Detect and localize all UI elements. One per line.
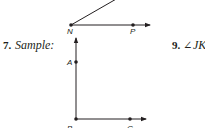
angle-symbol: ∠	[183, 39, 192, 52]
label-b: B	[67, 124, 73, 128]
geometry-figures: N P 7. Sample: 9. ∠ JKL A B C	[0, 0, 205, 128]
angle-n-figure: N P	[67, 0, 150, 36]
point-c	[128, 117, 132, 121]
exercise-7-number: 7.	[3, 39, 12, 51]
angle-abc-figure: A B C	[66, 38, 146, 128]
exercise-7-heading: 7. Sample:	[3, 38, 54, 52]
label-n: N	[67, 27, 73, 36]
textbook-page: N P 7. Sample: 9. ∠ JKL A B C	[0, 0, 205, 128]
exercise-7-label: Sample:	[15, 38, 54, 52]
exercise-9-heading: 9. ∠ JKL	[172, 38, 205, 52]
exercise-9-angle-name: JKL	[193, 38, 205, 52]
label-a: A	[66, 58, 72, 67]
point-b	[74, 117, 78, 121]
ray-n-upper	[71, 0, 118, 25]
point-a	[74, 60, 78, 64]
exercise-9-number: 9.	[172, 39, 181, 51]
label-c: C	[127, 124, 133, 128]
label-p: P	[130, 27, 136, 36]
